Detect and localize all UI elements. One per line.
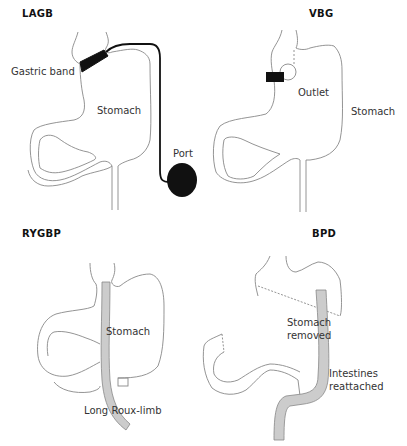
vbg-band-icon: [266, 72, 284, 82]
port-label: Port: [173, 148, 193, 160]
intestines-reattached-label-1: Intestines: [329, 368, 378, 380]
stomach-removed-label-2: removed: [287, 330, 331, 342]
rygbp-stomach-label: Stomach: [106, 326, 150, 338]
vbg-illustration: [213, 30, 342, 212]
gastric-band-icon: [80, 50, 108, 72]
stomach-removed-label-1: Stomach: [287, 317, 331, 329]
roux-limb-label: Long Roux-limb: [84, 405, 162, 417]
port-icon: [167, 163, 197, 197]
vbg-title: VBG: [309, 8, 333, 19]
vbg-stomach-label: Stomach: [351, 106, 395, 118]
lagb-stomach-label: Stomach: [97, 105, 141, 117]
rygbp-title: RYGBP: [22, 228, 61, 239]
lagb-title: LAGB: [22, 8, 53, 19]
intestines-reattached-label-2: reattached: [329, 381, 383, 393]
outlet-label: Outlet: [298, 87, 329, 99]
bpd-title: BPD: [312, 228, 336, 239]
gastric-band-label: Gastric band: [11, 66, 75, 78]
